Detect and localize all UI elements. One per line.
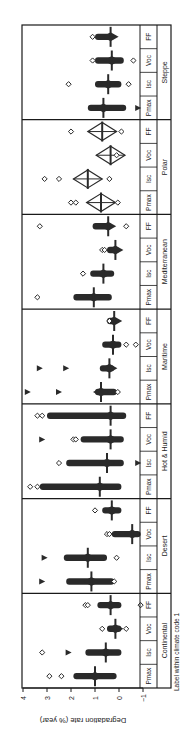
param-label: FF xyxy=(145,33,152,41)
climate-group-polar xyxy=(42,122,125,213)
distribution-pmax xyxy=(35,287,112,307)
open-diamond-outlier xyxy=(56,176,61,181)
param-label: FF xyxy=(145,222,152,230)
open-diamond-outlier xyxy=(92,508,97,513)
distribution-voc xyxy=(96,145,125,165)
distribution-voc xyxy=(100,240,124,260)
param-label: Isc xyxy=(145,648,152,657)
group-label: Polar xyxy=(161,158,168,175)
group-label: Desert xyxy=(161,536,168,557)
group-label: Hot & Humid xyxy=(161,431,168,471)
open-diamond-outlier xyxy=(56,460,61,465)
distribution-pmax xyxy=(28,477,122,497)
open-diamond-outlier xyxy=(40,650,45,655)
tick-label: 4 xyxy=(20,696,27,700)
open-diamond-outlier xyxy=(107,176,112,181)
distribution-ff xyxy=(68,122,124,142)
open-diamond-outlier xyxy=(124,224,129,229)
climate-group-steppe xyxy=(66,27,141,118)
tick-label: 3 xyxy=(44,696,51,700)
param-label: FF xyxy=(145,601,152,609)
group-label: Steppe xyxy=(161,61,169,83)
open-diamond-outlier xyxy=(37,224,42,229)
param-label: Voc xyxy=(145,528,152,540)
distribution-ff xyxy=(92,500,121,520)
open-diamond-outlier xyxy=(59,674,64,679)
param-label: Isc xyxy=(145,269,152,278)
climate-group-desert xyxy=(39,500,140,591)
climate-group-maritime xyxy=(25,311,139,402)
open-diamond-outlier xyxy=(90,58,95,63)
param-label: Voc xyxy=(145,433,152,445)
open-diamond-outlier xyxy=(100,626,105,631)
open-diamond-outlier xyxy=(115,200,120,205)
distribution-ff xyxy=(106,311,122,331)
param-label: Pmax xyxy=(145,383,152,400)
distribution-pmax xyxy=(39,571,117,591)
param-label: FF xyxy=(145,317,152,325)
open-diamond-outlier xyxy=(80,271,85,276)
degradation-chart: ContinentalPmaxIscVocFFDesertPmaxIscVocF… xyxy=(0,0,187,746)
param-label: Isc xyxy=(145,363,152,372)
tick-label: 0 xyxy=(116,696,123,700)
distribution-isc xyxy=(42,548,120,568)
open-diamond-outlier xyxy=(35,484,40,489)
distribution-isc xyxy=(37,358,118,378)
axis-title: Degradation rate (% year) xyxy=(39,716,126,725)
open-diamond-outlier xyxy=(133,342,138,347)
param-label: Pmax xyxy=(145,194,152,211)
open-diamond-outlier xyxy=(40,413,45,418)
param-label: Pmax xyxy=(145,288,152,305)
group-axis-title: Label within climate code 1 xyxy=(173,613,180,691)
triangle-outlier xyxy=(56,389,62,395)
open-diamond-outlier xyxy=(90,34,95,39)
param-label: Pmax xyxy=(145,99,152,116)
triangle-outlier xyxy=(25,389,31,395)
climate-group-continental xyxy=(40,595,144,686)
open-diamond-outlier xyxy=(124,626,129,631)
triangle-outlier xyxy=(63,365,69,371)
param-label: Voc xyxy=(145,54,152,66)
group-label: Continental xyxy=(161,622,168,658)
distribution-ff xyxy=(35,406,126,426)
param-label: FF xyxy=(145,412,152,420)
open-diamond-outlier xyxy=(131,58,136,63)
param-label: FF xyxy=(145,128,152,136)
distribution-voc xyxy=(39,429,124,449)
distribution-pmax xyxy=(68,193,120,213)
distribution-ff xyxy=(37,216,129,236)
distribution-isc xyxy=(40,642,122,662)
distribution-isc xyxy=(56,453,141,473)
open-diamond-outlier xyxy=(119,129,124,134)
param-label: Isc xyxy=(145,174,152,183)
distribution-isc xyxy=(80,264,114,284)
triangle-outlier xyxy=(66,649,72,655)
open-diamond-outlier xyxy=(126,82,131,87)
triangle-outlier xyxy=(39,436,45,442)
open-diamond-outlier xyxy=(35,295,40,300)
param-label: Voc xyxy=(145,623,152,635)
param-label: Pmax xyxy=(145,478,152,495)
open-diamond-outlier xyxy=(28,484,33,489)
data-band xyxy=(66,460,124,466)
tick-label: 1 xyxy=(92,696,99,700)
data-band xyxy=(40,484,122,490)
climate-group-hot-humid xyxy=(28,406,142,497)
param-label: Pmax xyxy=(145,667,152,684)
param-label: Isc xyxy=(145,458,152,467)
open-diamond-outlier xyxy=(47,674,52,679)
distribution-voc xyxy=(100,619,129,639)
param-label: Voc xyxy=(145,244,152,256)
distribution-voc xyxy=(102,335,138,355)
distribution-ff xyxy=(83,595,143,615)
param-label: Isc xyxy=(145,79,152,88)
distribution-ff xyxy=(90,27,119,47)
climate-group-mediterranean xyxy=(35,216,129,307)
open-diamond-outlier xyxy=(68,129,73,134)
open-diamond-outlier xyxy=(114,153,119,158)
open-diamond-outlier xyxy=(42,176,47,181)
distribution-isc xyxy=(66,74,131,94)
distribution-pmax xyxy=(25,382,121,402)
open-diamond-outlier xyxy=(138,603,143,608)
param-label: Voc xyxy=(145,149,152,161)
